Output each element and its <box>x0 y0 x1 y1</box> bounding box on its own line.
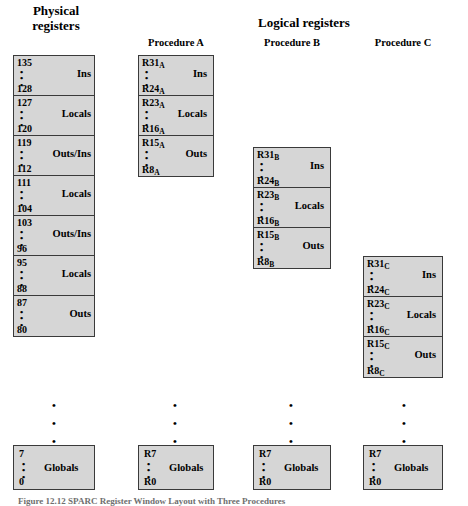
segment-bottom-label: 128 <box>17 83 32 94</box>
segment-name: Ins <box>193 68 207 79</box>
register-segment: 103•••Outs/Ins96 <box>14 216 94 256</box>
globals-bottom-label: R0 <box>144 476 156 487</box>
register-segment: 127•••Locals120 <box>14 96 94 136</box>
globals-name: Globals <box>44 462 78 473</box>
globals-top-label: R7 <box>369 448 381 459</box>
globals-top-label: 7 <box>19 448 24 459</box>
physical-registers-title: Physicalregisters <box>6 4 106 34</box>
globals-name: Globals <box>284 462 318 473</box>
segment-name: Outs <box>69 308 91 319</box>
segment-name: Locals <box>62 268 91 279</box>
segment-bottom-label: R16C <box>367 324 390 335</box>
segment-bottom-label: 96 <box>17 243 27 254</box>
segment-bottom-label: 120 <box>17 123 32 134</box>
segment-name: Locals <box>62 188 91 199</box>
procedure-b-stack: R31B•••InsR24BR23B•••LocalsR16BR15B•••Ou… <box>253 147 331 269</box>
segment-bottom-label: R24C <box>367 284 390 295</box>
procedure-c-stack: R31C•••InsR24CR23C•••LocalsR16CR15C•••Ou… <box>363 256 443 378</box>
globals-name: Globals <box>394 462 428 473</box>
register-segment: R15C•••OutsR8C <box>364 337 442 377</box>
segment-name: Ins <box>422 269 436 280</box>
register-segment: 87•••Outs80 <box>14 296 94 336</box>
globals-box-physical: 7•••Globals0 <box>13 445 95 490</box>
globals-name: Globals <box>169 462 203 473</box>
register-segment: 95•••Locals88 <box>14 256 94 296</box>
segment-name: Locals <box>178 108 207 119</box>
register-segment: R23B•••LocalsR16B <box>254 188 330 228</box>
register-segment: R23C•••LocalsR16C <box>364 297 442 337</box>
physical-registers-stack: 135•••Ins128127•••Locals120119•••Outs/In… <box>13 55 95 337</box>
globals-bottom-label: 0 <box>19 476 24 487</box>
segment-bottom-label: 112 <box>17 163 31 174</box>
segment-bottom-label: R24A <box>142 83 165 94</box>
figure-caption: Figure 12.12 SPARC Register Window Layou… <box>18 496 468 506</box>
register-segment: 119•••Outs/Ins112 <box>14 136 94 176</box>
segment-name: Outs <box>414 349 436 360</box>
register-segment: R31C•••InsR24C <box>364 257 442 297</box>
ellipsis-procedure-b: ••• <box>285 396 297 450</box>
segment-bottom-label: R8A <box>142 164 160 175</box>
segment-bottom-label: R8C <box>367 365 385 376</box>
register-segment: R31B•••InsR24B <box>254 148 330 188</box>
segment-bottom-label: 104 <box>17 203 32 214</box>
globals-box-procedure-a: R7•••GlobalsR0 <box>138 445 214 490</box>
segment-name: Outs/Ins <box>52 148 91 159</box>
register-segment: R15A•••OutsR8A <box>139 136 213 176</box>
segment-name: Ins <box>310 160 324 171</box>
segment-name: Outs/Ins <box>52 228 91 239</box>
segment-bottom-label: R16B <box>257 215 279 226</box>
procedure-a-stack: R31A•••InsR24AR23A•••LocalsR16AR15A•••Ou… <box>138 55 214 177</box>
segment-name: Locals <box>295 200 324 211</box>
segment-bottom-label: 88 <box>17 283 27 294</box>
register-segment: R15B•••OutsR8B <box>254 228 330 268</box>
segment-name: Outs <box>302 240 324 251</box>
globals-box-procedure-c: R7•••GlobalsR0 <box>363 445 443 490</box>
segment-bottom-label: R16A <box>142 123 165 134</box>
register-segment: 111•••Locals104 <box>14 176 94 216</box>
segment-name: Outs <box>185 148 207 159</box>
register-segment: R23A•••LocalsR16A <box>139 96 213 136</box>
column-header-procedure-c: Procedure C <box>357 37 449 48</box>
logical-registers-title: Logical registers <box>140 16 468 31</box>
register-segment: R31A•••InsR24A <box>139 56 213 96</box>
globals-bottom-label: R0 <box>259 476 271 487</box>
globals-bottom-label: R0 <box>369 476 381 487</box>
globals-top-label: R7 <box>144 448 156 459</box>
column-header-procedure-a: Procedure A <box>130 37 222 48</box>
segment-bottom-label: R24B <box>257 175 279 186</box>
segment-name: Locals <box>62 108 91 119</box>
ellipsis-procedure-c: ••• <box>398 396 410 450</box>
ellipsis-physical: ••• <box>48 396 60 450</box>
segment-name: Ins <box>77 68 91 79</box>
segment-name: Locals <box>407 309 436 320</box>
register-segment: 135•••Ins128 <box>14 56 94 96</box>
column-header-procedure-b: Procedure B <box>246 37 338 48</box>
segment-bottom-label: 80 <box>17 324 27 335</box>
ellipsis-procedure-a: ••• <box>169 396 181 450</box>
globals-top-label: R7 <box>259 448 271 459</box>
segment-bottom-label: R8B <box>257 256 274 267</box>
globals-box-procedure-b: R7•••GlobalsR0 <box>253 445 331 490</box>
